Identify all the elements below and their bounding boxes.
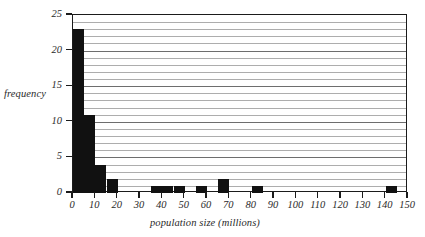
y-axis-tick-label: 20	[22, 45, 62, 55]
x-axis-tick	[362, 192, 363, 198]
y-axis-tick-label: 5	[22, 151, 62, 161]
x-axis-tick	[71, 192, 72, 198]
histogram-bar	[73, 29, 84, 193]
x-axis-tick	[384, 192, 385, 198]
histogram-figure: frequency 0510152025 0102030405060708090…	[0, 0, 425, 237]
x-axis-tick	[250, 192, 251, 198]
y-axis-tick-label: 15	[22, 80, 62, 90]
x-axis-tick	[116, 192, 117, 198]
x-axis-tick	[138, 192, 139, 198]
y-axis-tick-label: 10	[22, 116, 62, 126]
bars	[73, 15, 406, 191]
x-axis-tick	[94, 192, 95, 198]
plot-area	[72, 14, 407, 192]
x-axis-tick	[406, 192, 407, 198]
histogram-bar	[386, 186, 397, 193]
x-axis-tick	[339, 192, 340, 198]
histogram-bar	[95, 165, 106, 193]
x-axis-tick	[228, 192, 229, 198]
y-axis-tick-label: 25	[22, 9, 62, 19]
histogram-bar	[84, 115, 95, 193]
x-axis-label: population size (millions)	[150, 217, 350, 229]
x-axis-tick	[295, 192, 296, 198]
histogram-bar	[252, 186, 263, 193]
x-axis-tick-label: 150	[392, 199, 422, 211]
histogram-bar	[162, 186, 173, 193]
x-axis-tick	[317, 192, 318, 198]
x-axis-tick	[205, 192, 206, 198]
y-axis-tick-label: 0	[22, 187, 62, 197]
x-axis-tick	[161, 192, 162, 198]
x-axis-tick	[183, 192, 184, 198]
x-axis-tick	[272, 192, 273, 198]
histogram-bar	[107, 179, 118, 193]
histogram-bar	[218, 179, 229, 193]
